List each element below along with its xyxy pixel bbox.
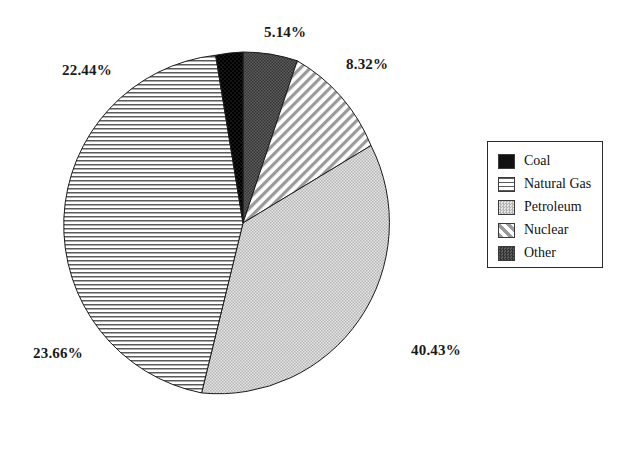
data-label-natural-gas: 23.66% xyxy=(33,345,83,362)
legend-label-natural-gas: Natural Gas xyxy=(524,177,591,191)
legend-item-coal[interactable]: Coal xyxy=(498,150,602,172)
legend-swatch-petroleum-icon xyxy=(498,200,515,215)
legend-swatch-coal-icon xyxy=(498,154,515,169)
legend-swatch-other-icon xyxy=(498,246,515,261)
legend-item-other[interactable]: Other xyxy=(498,242,602,264)
legend-swatch-nuclear-icon xyxy=(498,223,515,238)
chart-legend: Coal Natural Gas Petroleum Nuclear Other xyxy=(487,141,603,268)
data-label-coal: 22.44% xyxy=(62,62,112,79)
data-label-other: 5.14% xyxy=(264,24,306,41)
legend-label-other: Other xyxy=(524,246,556,260)
legend-label-coal: Coal xyxy=(524,154,550,168)
legend-item-petroleum[interactable]: Petroleum xyxy=(498,196,602,218)
data-label-nuclear: 8.32% xyxy=(346,56,388,73)
legend-label-nuclear: Nuclear xyxy=(524,223,568,237)
legend-label-petroleum: Petroleum xyxy=(524,200,582,214)
pie-chart-figure: 5.14% 8.32% 40.43% 23.66% 22.44% Coal Na… xyxy=(0,0,636,451)
legend-item-natural-gas[interactable]: Natural Gas xyxy=(498,173,602,195)
legend-item-nuclear[interactable]: Nuclear xyxy=(498,219,602,241)
legend-swatch-natural-gas-icon xyxy=(498,177,515,192)
data-label-petroleum: 40.43% xyxy=(411,342,461,359)
